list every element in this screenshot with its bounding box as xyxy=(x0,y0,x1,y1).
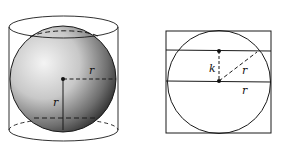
slant-radius-line xyxy=(219,52,257,81)
diagram-canvas: r r k r r xyxy=(0,0,282,151)
sphere-center-dot xyxy=(61,77,65,81)
cross-section-figure: k r r xyxy=(166,31,271,134)
center-dot xyxy=(217,79,221,83)
label-vertical-radius: r xyxy=(53,96,59,109)
label-horizontal-radius: r xyxy=(89,64,95,77)
chord-midpoint-dot xyxy=(217,49,221,53)
sphere-in-cylinder-figure: r r xyxy=(9,16,118,141)
label-horizontal-radius: r xyxy=(242,84,248,97)
label-distance-k: k xyxy=(209,62,216,75)
label-slant-radius: r xyxy=(242,64,248,77)
